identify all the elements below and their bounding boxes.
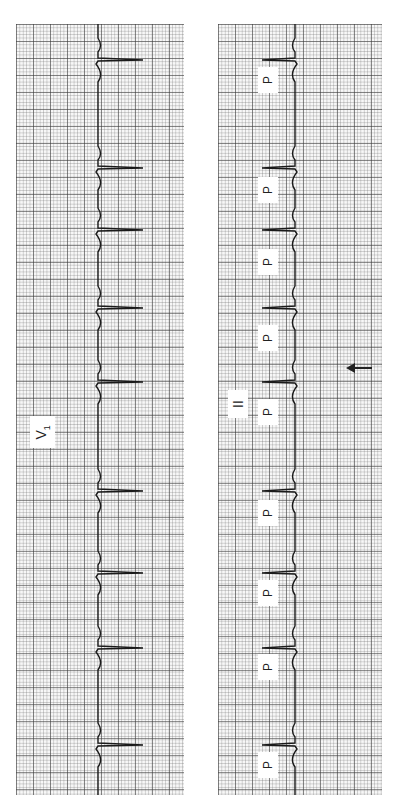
p-wave-label: P	[258, 249, 278, 275]
p-wave-label: P	[258, 580, 278, 606]
p-wave-label: P	[258, 752, 278, 778]
p-wave-label: P	[258, 177, 278, 203]
lead-v1-label: V1	[30, 416, 55, 448]
left-arrow-icon	[346, 363, 372, 373]
p-wave-label: P	[258, 654, 278, 680]
lead-ii-label: II	[228, 390, 248, 418]
p-wave-label: P	[258, 67, 278, 93]
ecg-strip-lead-v1	[16, 24, 184, 795]
p-wave-label: P	[258, 500, 278, 526]
p-wave-label: P	[258, 325, 278, 351]
p-wave-label: P	[258, 399, 278, 425]
